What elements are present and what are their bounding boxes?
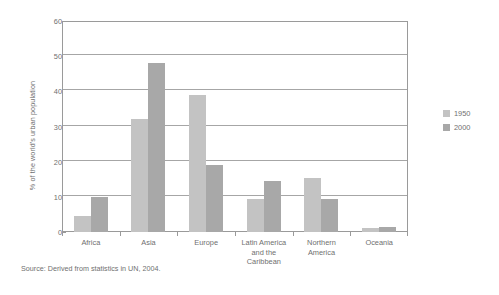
- y-tick-label: 0: [40, 228, 62, 237]
- bar-group: [350, 21, 408, 232]
- x-tick-mark: [177, 232, 178, 236]
- bar-1950: [247, 199, 264, 232]
- x-tick-mark: [293, 232, 294, 236]
- bar-group: [62, 21, 120, 232]
- y-axis-ticks: 0102030405060: [33, 21, 62, 232]
- y-tick-label: 60: [40, 17, 62, 26]
- bar-1950: [304, 178, 321, 233]
- y-tick-label: 40: [40, 87, 62, 96]
- legend-label: 1950: [454, 109, 470, 118]
- bar-group: [177, 21, 235, 232]
- bars-layer: [62, 21, 408, 232]
- bar-2000: [91, 197, 108, 232]
- x-category-label-line: Caribbean: [223, 257, 305, 267]
- bar-group: [293, 21, 351, 232]
- legend-label: 2000: [454, 123, 470, 132]
- bar-2000: [264, 181, 281, 232]
- legend-swatch-icon: [443, 124, 450, 131]
- bar-1950: [74, 216, 91, 232]
- legend-swatch-icon: [443, 110, 450, 117]
- bar-2000: [148, 63, 165, 232]
- bar-2000: [321, 199, 338, 232]
- x-category-label-line: Oceania: [338, 238, 420, 248]
- legend-item-1950[interactable]: 1950: [443, 106, 497, 120]
- bar-chart-figure: % of the world's urban population 010203…: [0, 0, 499, 295]
- x-tick-mark: [350, 232, 351, 236]
- y-tick-label: 30: [40, 122, 62, 131]
- chart-legend: 19502000: [443, 106, 497, 134]
- x-axis-ticks: [62, 232, 408, 237]
- source-note: Source: Derived from statistics in UN, 2…: [21, 264, 160, 273]
- x-tick-mark: [120, 232, 121, 236]
- x-category-label-line: America: [281, 248, 363, 258]
- bar-2000: [206, 165, 223, 232]
- y-tick-label: 20: [40, 157, 62, 166]
- x-tick-mark: [407, 232, 408, 236]
- bar-1950: [131, 119, 148, 232]
- legend-item-2000[interactable]: 2000: [443, 120, 497, 134]
- x-tick-mark: [235, 232, 236, 236]
- bar-group: [120, 21, 178, 232]
- x-category-label: Oceania: [338, 238, 420, 248]
- x-tick-mark: [62, 232, 63, 236]
- y-tick-label: 10: [40, 192, 62, 201]
- bar-1950: [189, 95, 206, 232]
- y-tick-label: 50: [40, 52, 62, 61]
- bar-group: [235, 21, 293, 232]
